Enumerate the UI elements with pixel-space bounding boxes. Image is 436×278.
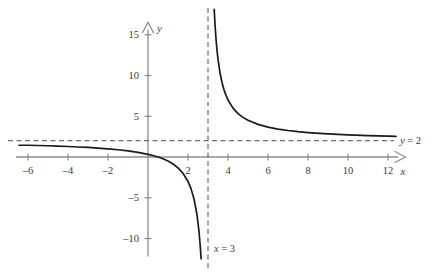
- x-axis-tick-label: –2: [102, 165, 114, 176]
- y-axis-tick-label: 5: [134, 111, 139, 122]
- x-axis-tick-label: –6: [22, 165, 34, 176]
- vertical-asymptote-label: x = 3: [213, 243, 235, 254]
- chart-figure: –6–4–22468101215105–5–10xy y = 2x = 3: [0, 0, 436, 278]
- x-axis-tick-label: 8: [305, 165, 310, 176]
- y-axis-name-label: y: [156, 22, 162, 34]
- x-axis-tick-label: 12: [383, 165, 394, 176]
- chart-background: [0, 0, 436, 278]
- y-axis-tick-label: 15: [129, 29, 140, 40]
- x-axis-tick-label: 10: [343, 165, 354, 176]
- x-axis-name-label: x: [400, 165, 406, 177]
- rational-function-graph: –6–4–22468101215105–5–10xy y = 2x = 3: [0, 0, 436, 278]
- y-axis-tick-label: –10: [122, 233, 139, 244]
- horizontal-asymptote-label: y = 2: [399, 135, 421, 146]
- x-axis-tick-label: 2: [185, 165, 190, 176]
- x-axis-tick-label: –4: [62, 165, 74, 176]
- x-axis-tick-label: 6: [265, 165, 270, 176]
- x-axis-tick-label: 4: [225, 165, 231, 176]
- y-axis-tick-label: 10: [129, 70, 140, 81]
- y-axis-tick-label: –5: [128, 192, 140, 203]
